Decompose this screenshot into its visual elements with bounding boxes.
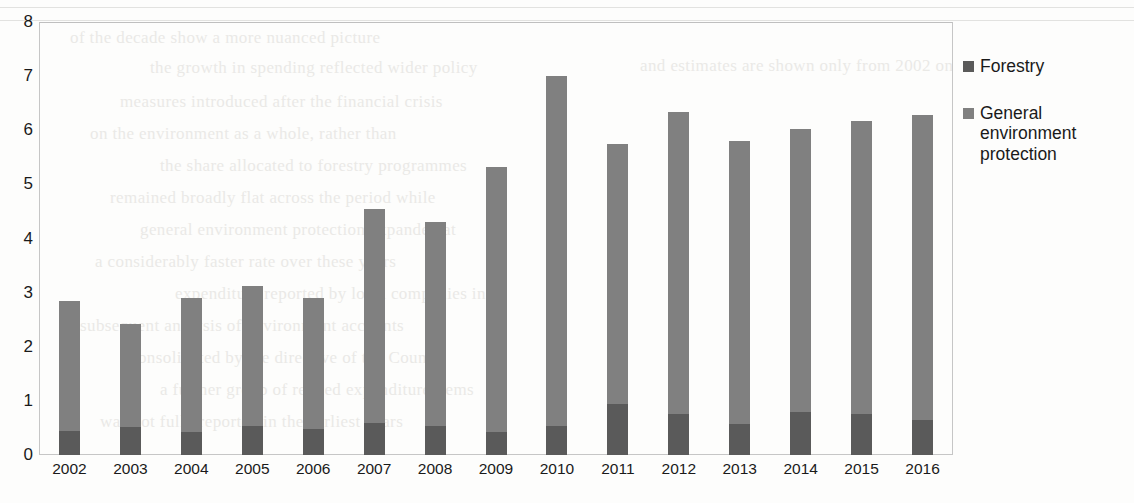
bar-group[interactable] xyxy=(851,121,872,455)
bar-segment-general-environment-protection[interactable] xyxy=(668,112,689,413)
y-axis-tick-label: 2 xyxy=(3,337,33,357)
x-axis-tick-label: 2006 xyxy=(283,460,343,478)
legend-swatch-icon xyxy=(963,108,974,119)
bar-segment-forestry[interactable] xyxy=(120,427,141,455)
legend-item[interactable]: General environment protection xyxy=(963,103,1131,165)
x-axis-tick-label: 2007 xyxy=(344,460,404,478)
y-axis-tick-label: 5 xyxy=(3,174,33,194)
bar-group[interactable] xyxy=(59,301,80,455)
bar-segment-forestry[interactable] xyxy=(668,414,689,455)
bar-group[interactable] xyxy=(181,298,202,455)
stacked-bar-chart: 012345678 200220032004200520062007200820… xyxy=(0,0,1134,503)
x-axis-tick-label: 2010 xyxy=(527,460,587,478)
bar-segment-general-environment-protection[interactable] xyxy=(729,141,750,424)
bar-segment-general-environment-protection[interactable] xyxy=(851,121,872,414)
bar-segment-forestry[interactable] xyxy=(486,432,507,455)
bar-segment-general-environment-protection[interactable] xyxy=(790,129,811,412)
bar-segment-forestry[interactable] xyxy=(59,431,80,455)
bar-group[interactable] xyxy=(364,209,385,455)
bar-segment-general-environment-protection[interactable] xyxy=(546,76,567,426)
bar-group[interactable] xyxy=(729,141,750,455)
bar-segment-forestry[interactable] xyxy=(729,424,750,455)
bar-segment-forestry[interactable] xyxy=(303,429,324,455)
bar-segment-general-environment-protection[interactable] xyxy=(181,298,202,432)
y-axis-tick-label: 1 xyxy=(3,391,33,411)
x-axis: 2002200320042005200620072008200920102011… xyxy=(39,460,953,490)
bar-segment-general-environment-protection[interactable] xyxy=(364,209,385,423)
bar-segment-general-environment-protection[interactable] xyxy=(303,298,324,429)
legend-item-label: General environment protection xyxy=(980,103,1125,165)
x-axis-tick-label: 2016 xyxy=(893,460,953,478)
x-axis-tick-label: 2011 xyxy=(588,460,648,478)
bar-segment-general-environment-protection[interactable] xyxy=(59,301,80,431)
bar-segment-forestry[interactable] xyxy=(364,423,385,455)
bar-segment-forestry[interactable] xyxy=(607,404,628,455)
x-axis-tick-label: 2004 xyxy=(161,460,221,478)
y-axis-tick-label: 7 xyxy=(3,66,33,86)
bar-segment-general-environment-protection[interactable] xyxy=(607,144,628,403)
y-axis-tick-label: 4 xyxy=(3,229,33,249)
bar-group[interactable] xyxy=(912,115,933,455)
x-axis-tick-label: 2015 xyxy=(832,460,892,478)
x-axis-tick-label: 2002 xyxy=(39,460,99,478)
legend-swatch-icon xyxy=(963,61,974,72)
bar-segment-forestry[interactable] xyxy=(851,414,872,455)
chart-legend: ForestryGeneral environment protection xyxy=(963,56,1131,191)
bars-layer xyxy=(39,22,953,455)
bar-segment-general-environment-protection[interactable] xyxy=(486,167,507,433)
bar-segment-forestry[interactable] xyxy=(912,420,933,455)
bar-segment-forestry[interactable] xyxy=(790,412,811,455)
x-axis-tick-label: 2003 xyxy=(100,460,160,478)
bar-group[interactable] xyxy=(486,167,507,455)
bar-segment-general-environment-protection[interactable] xyxy=(912,115,933,420)
bar-segment-general-environment-protection[interactable] xyxy=(242,286,263,427)
x-axis-tick-label: 2005 xyxy=(222,460,282,478)
x-axis-tick-label: 2013 xyxy=(710,460,770,478)
y-axis-tick-label: 0 xyxy=(3,445,33,465)
x-axis-tick-label: 2014 xyxy=(771,460,831,478)
legend-item[interactable]: Forestry xyxy=(963,56,1131,77)
bar-group[interactable] xyxy=(120,324,141,455)
bar-group[interactable] xyxy=(790,129,811,455)
y-axis-tick-label: 8 xyxy=(3,12,33,32)
bar-segment-forestry[interactable] xyxy=(181,432,202,455)
y-axis-tick-label: 6 xyxy=(3,120,33,140)
bar-segment-general-environment-protection[interactable] xyxy=(425,222,446,426)
bar-group[interactable] xyxy=(242,286,263,455)
bar-group[interactable] xyxy=(668,112,689,455)
bar-segment-forestry[interactable] xyxy=(546,426,567,455)
bar-segment-forestry[interactable] xyxy=(242,426,263,455)
y-axis-tick-label: 3 xyxy=(3,283,33,303)
y-axis: 012345678 xyxy=(0,22,33,455)
bar-group[interactable] xyxy=(546,76,567,455)
x-axis-tick-label: 2009 xyxy=(466,460,526,478)
legend-item-label: Forestry xyxy=(980,56,1044,77)
bar-segment-general-environment-protection[interactable] xyxy=(120,324,141,427)
bar-segment-forestry[interactable] xyxy=(425,426,446,455)
bar-group[interactable] xyxy=(303,298,324,455)
x-axis-tick-label: 2008 xyxy=(405,460,465,478)
bar-group[interactable] xyxy=(607,144,628,455)
x-axis-tick-label: 2012 xyxy=(649,460,709,478)
bar-group[interactable] xyxy=(425,222,446,455)
